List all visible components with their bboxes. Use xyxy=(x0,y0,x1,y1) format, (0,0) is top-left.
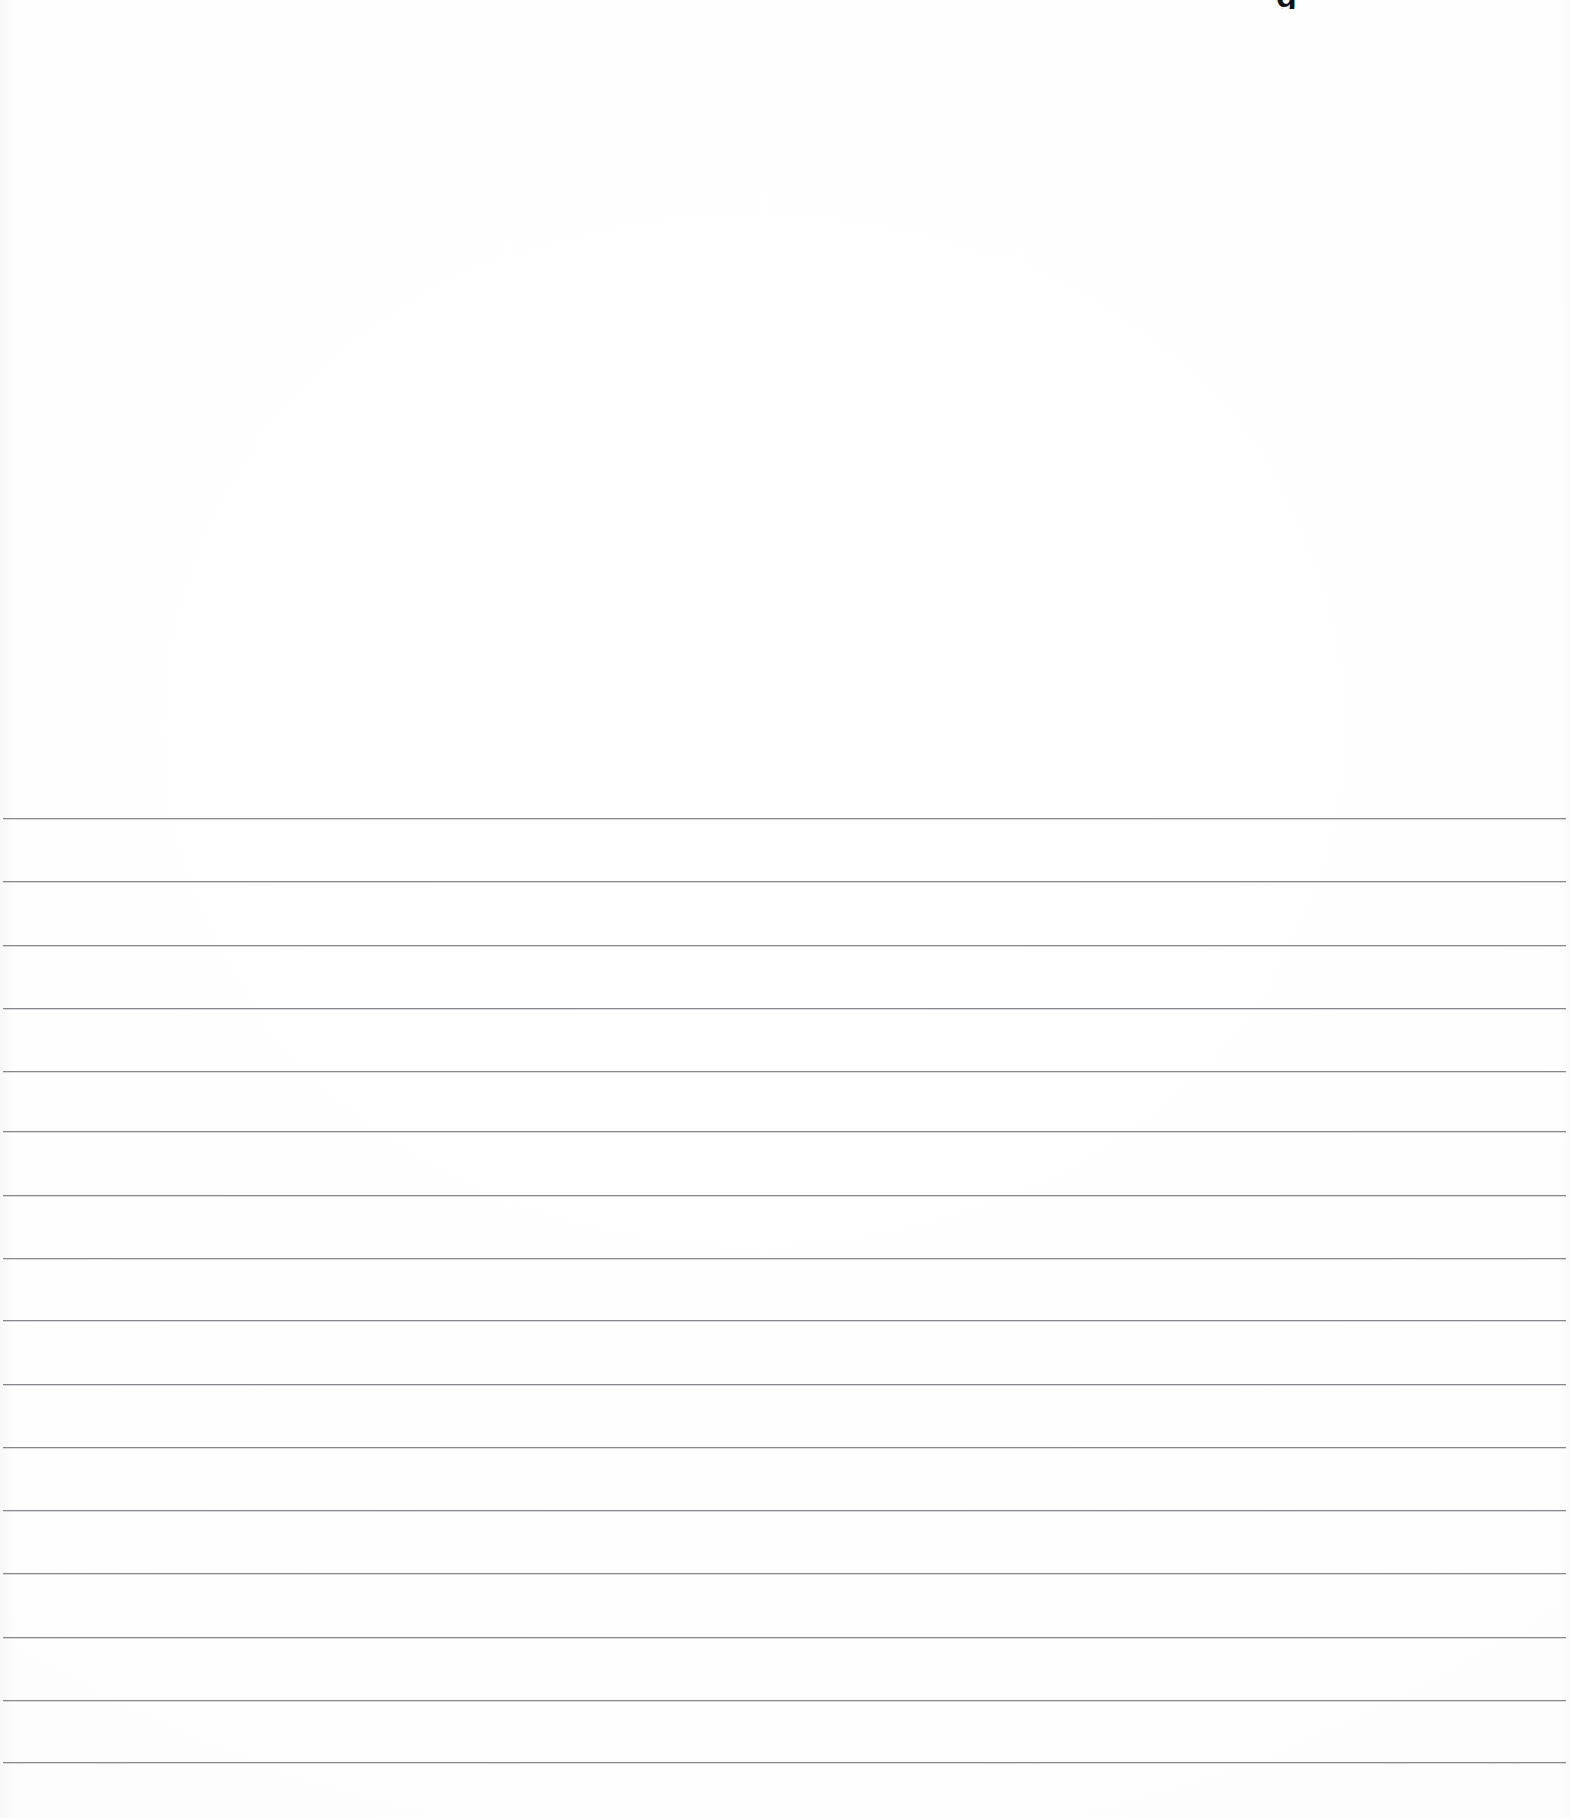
rule-line xyxy=(3,1071,1566,1072)
rule-line xyxy=(3,1700,1566,1701)
rule-line xyxy=(3,1762,1566,1763)
scanned-page: g xyxy=(0,0,1570,1818)
rule-line xyxy=(3,881,1566,882)
rule-line xyxy=(3,1258,1566,1259)
rule-line xyxy=(3,1131,1566,1132)
rule-line xyxy=(3,1195,1566,1196)
rule-line xyxy=(3,1008,1566,1009)
rule-line xyxy=(3,818,1566,819)
rule-line xyxy=(3,1384,1566,1385)
rule-line xyxy=(3,1320,1566,1321)
rule-line xyxy=(3,1510,1566,1511)
rule-line xyxy=(3,1447,1566,1448)
rule-line xyxy=(3,945,1566,946)
rule-line xyxy=(3,1637,1566,1638)
horizontal-rule-set xyxy=(0,0,1570,1818)
rule-line xyxy=(3,1573,1566,1574)
